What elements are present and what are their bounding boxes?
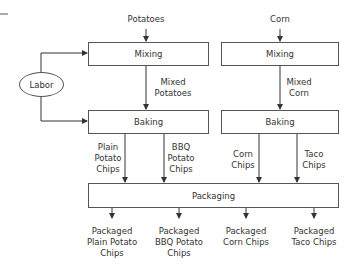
flow-plain-potato-chips: Plain Potato Chips: [93, 142, 123, 175]
input-labor: Labor: [19, 72, 64, 97]
input-potatoes: Potatoes: [116, 14, 176, 25]
process-baking-potatoes: Baking: [88, 110, 209, 134]
flow-corn-chips: Corn Chips: [228, 149, 258, 171]
flow-taco-chips: Taco Chips: [299, 149, 329, 171]
process-mixing-potatoes: Mixing: [88, 42, 209, 66]
output-packaged-taco: Packaged Taco Chips: [284, 226, 344, 248]
process-mixing-corn: Mixing: [221, 42, 339, 66]
input-corn: Corn: [250, 14, 310, 25]
flow-mixed-potatoes: Mixed Potatoes: [150, 77, 196, 99]
process-packaging: Packaging: [88, 183, 339, 208]
flow-mixed-corn: Mixed Corn: [282, 77, 316, 99]
process-baking-corn: Baking: [221, 110, 339, 134]
flow-bbq-potato-chips: BBQ Potato Chips: [166, 142, 196, 175]
output-packaged-bbq: Packaged BBQ Potato Chips: [149, 226, 209, 259]
output-packaged-corn: Packaged Corn Chips: [216, 226, 276, 248]
output-packaged-plain: Packaged Plain Potato Chips: [82, 226, 142, 259]
